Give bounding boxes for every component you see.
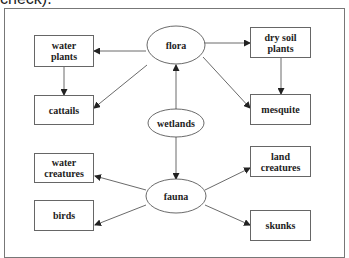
node-skunks: skunks: [250, 210, 311, 241]
node-birds: birds: [34, 200, 94, 231]
edge-flora-mesquite: [203, 57, 250, 108]
edge-fauna-water-creatures: [95, 176, 146, 190]
node-mesquite: mesquite: [250, 94, 311, 125]
node-land-creatures: land creatures: [250, 146, 311, 177]
edge-fauna-land-creatures: [205, 168, 250, 190]
node-flora: flora: [147, 26, 205, 64]
edge-fauna-birds: [95, 205, 146, 225]
node-water-plants: water plants: [34, 35, 94, 67]
node-wetlands: wetlands: [148, 109, 204, 137]
node-fauna: fauna: [146, 179, 206, 213]
edge-fauna-skunks: [205, 205, 250, 225]
node-cattails: cattails: [34, 95, 94, 125]
edge-flora-cattails: [94, 65, 147, 108]
node-water-creatures: water creatures: [34, 153, 94, 183]
node-dry-soil-plants: dry soil plants: [250, 27, 311, 58]
